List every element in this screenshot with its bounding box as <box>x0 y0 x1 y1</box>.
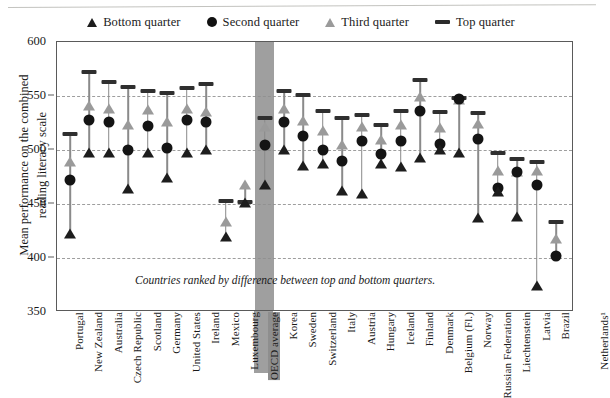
x-axis-tick-label: Belgium (Fl.) <box>462 312 474 373</box>
marker-bottom-quarter <box>395 162 407 172</box>
marker-bottom-quarter <box>472 213 484 223</box>
bar-dark-icon <box>435 20 450 24</box>
marker-bottom-quarter <box>317 159 329 169</box>
marker-third-quarter <box>317 125 329 135</box>
plot-inner <box>57 42 572 310</box>
y-axis-tick-mark <box>48 149 54 150</box>
gridline <box>57 258 572 259</box>
range-stem <box>128 87 130 189</box>
marker-top-quarter <box>179 86 194 90</box>
y-axis-tick-mark <box>48 95 54 96</box>
y-axis-tick-label: 500 <box>27 142 46 157</box>
range-stem <box>478 113 480 218</box>
marker-bottom-quarter <box>434 145 446 155</box>
marker-third-quarter <box>472 119 484 129</box>
marker-third-quarter <box>181 103 193 113</box>
range-stem <box>322 111 324 164</box>
marker-second-quarter <box>259 139 270 150</box>
legend-item-bottom-quarter: Bottom quarter <box>87 15 180 30</box>
marker-third-quarter <box>278 103 290 113</box>
x-axis-tick-label: Iceland <box>404 312 416 345</box>
marker-top-quarter <box>121 85 136 89</box>
marker-second-quarter <box>84 114 95 125</box>
legend-label-third-quarter: Third quarter <box>341 15 409 30</box>
marker-second-quarter <box>123 145 134 156</box>
y-axis-tick-label: 450 <box>27 196 46 211</box>
marker-top-quarter <box>160 91 175 95</box>
x-axis-tick-label: Portugal <box>73 312 85 350</box>
marker-bottom-quarter <box>531 281 543 291</box>
marker-third-quarter <box>239 179 251 189</box>
marker-bottom-quarter <box>278 145 290 155</box>
marker-top-quarter <box>413 78 428 82</box>
legend-label-second-quarter: Second quarter <box>223 15 300 30</box>
gridline <box>57 204 572 205</box>
x-axis-tick-label: Russian Federation <box>501 312 513 398</box>
plot-area: Countries ranked by difference between t… <box>56 41 573 311</box>
y-axis: Mean performance on the combined reading… <box>0 41 54 311</box>
marker-bottom-quarter <box>375 159 387 169</box>
x-axis-tick-label: Brazil <box>559 312 571 339</box>
marker-top-quarter <box>218 199 233 203</box>
gridline <box>57 96 572 97</box>
marker-top-quarter <box>257 116 272 120</box>
marker-top-quarter <box>63 132 78 136</box>
x-axis-tick-label: Italy <box>345 312 357 333</box>
x-axis-labels: PortugalNew ZealandAustraliaCzech Republ… <box>56 312 573 391</box>
marker-second-quarter <box>298 130 309 141</box>
marker-third-quarter <box>434 123 446 133</box>
marker-second-quarter <box>278 116 289 127</box>
marker-bottom-quarter <box>103 148 115 158</box>
marker-top-quarter <box>276 89 291 93</box>
marker-second-quarter <box>512 166 523 177</box>
y-axis-tick-label: 600 <box>27 34 46 49</box>
x-axis-tick-label: Switzerland <box>326 312 338 366</box>
marker-top-quarter <box>374 123 389 127</box>
marker-second-quarter <box>142 121 153 132</box>
marker-bottom-quarter <box>239 197 251 207</box>
marker-top-quarter <box>101 80 116 84</box>
marker-top-quarter <box>199 82 214 86</box>
marker-second-quarter <box>162 142 173 153</box>
marker-bottom-quarter <box>161 173 173 183</box>
x-axis-tick-label: Scotland <box>151 312 163 351</box>
marker-bottom-quarter <box>511 211 523 221</box>
marker-third-quarter <box>356 122 368 132</box>
marker-third-quarter <box>297 115 309 125</box>
marker-second-quarter <box>181 114 192 125</box>
marker-bottom-quarter <box>297 161 309 171</box>
x-axis-tick-label: Mexico <box>229 312 241 346</box>
marker-top-quarter <box>315 109 330 113</box>
chart-legend: Bottom quarter Second quarter Third quar… <box>0 12 602 32</box>
plot-annotation: Countries ranked by difference between t… <box>135 274 435 286</box>
marker-bottom-quarter <box>356 189 368 199</box>
marker-third-quarter <box>259 122 271 132</box>
marker-second-quarter <box>103 116 114 127</box>
y-axis-tick-label: 550 <box>27 88 46 103</box>
marker-bottom-quarter <box>220 232 232 242</box>
marker-third-quarter <box>122 120 134 130</box>
scan-artifact-line <box>8 4 596 8</box>
marker-second-quarter <box>473 134 484 145</box>
legend-label-top-quarter: Top quarter <box>456 15 515 30</box>
marker-third-quarter <box>492 165 504 175</box>
y-axis-tick-label: 400 <box>27 250 46 265</box>
x-axis-tick-label: Austria <box>365 312 377 345</box>
range-stem <box>458 98 460 153</box>
marker-third-quarter <box>395 120 407 130</box>
marker-third-quarter <box>550 233 562 243</box>
legend-label-bottom-quarter: Bottom quarter <box>103 15 180 30</box>
triangle-dark-icon <box>87 18 97 27</box>
marker-top-quarter <box>393 109 408 113</box>
marker-top-quarter <box>354 113 369 117</box>
marker-second-quarter <box>395 136 406 147</box>
marker-top-quarter <box>490 151 505 155</box>
triangle-grey-icon <box>325 18 335 27</box>
x-axis-tick-label: Liechtenstein <box>520 312 532 373</box>
marker-bottom-quarter <box>492 187 504 197</box>
marker-bottom-quarter <box>259 179 271 189</box>
marker-bottom-quarter <box>336 186 348 196</box>
x-axis-tick-label: Denmark <box>443 312 455 354</box>
marker-bottom-quarter <box>142 148 154 158</box>
marker-second-quarter <box>65 175 76 186</box>
